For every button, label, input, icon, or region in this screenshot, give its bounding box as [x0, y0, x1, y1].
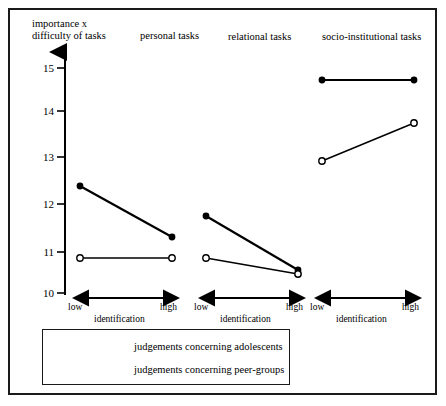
axis-low-label-socio: low	[310, 302, 324, 312]
data-point-open	[319, 158, 325, 164]
legend-box	[42, 329, 290, 385]
axis-name-relational: identification	[220, 314, 271, 324]
axis-high-label-socio: high	[402, 302, 419, 312]
data-point-filled	[203, 213, 210, 220]
panel-personal-tasks	[74, 183, 178, 298]
axis-name-personal: identification	[94, 314, 145, 324]
legend-label-adolescents: judgements concerning adolescents	[134, 341, 283, 352]
data-point-filled	[77, 183, 84, 190]
legend-label-peer-groups: judgements concerning peer-groups	[134, 364, 284, 375]
data-point-filled	[411, 77, 418, 84]
y-axis	[57, 52, 65, 295]
data-point-open	[411, 120, 417, 126]
data-point-open	[295, 271, 301, 277]
axis-name-socio: identification	[336, 314, 387, 324]
axis-high-label-relational: high	[286, 302, 303, 312]
chart-stage: importance xdifficulty of tasks personal…	[10, 10, 435, 393]
axis-high-label-personal: high	[160, 302, 177, 312]
axis-low-label-relational: low	[194, 302, 208, 312]
panel-socio-institutional-tasks	[316, 77, 420, 298]
panel-relational-tasks	[200, 213, 304, 298]
data-point-open	[77, 255, 83, 261]
axis-low-label-personal: low	[68, 302, 82, 312]
figure-frame: importance xdifficulty of tasks personal…	[8, 8, 437, 395]
data-point-open	[169, 255, 175, 261]
data-point-filled	[319, 77, 326, 84]
data-point-open	[203, 255, 209, 261]
data-point-filled	[169, 234, 176, 241]
